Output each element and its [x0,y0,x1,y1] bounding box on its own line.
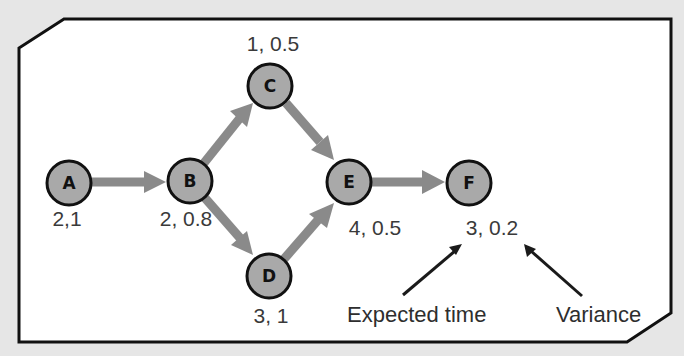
node-b-label: B [184,171,197,191]
node-d: D 3, 1 [247,254,291,327]
node-c-label: C [264,76,276,96]
node-e-label: E [343,172,355,192]
variance-label: Variance [556,302,641,327]
pert-diagram: A 2,1 B 2, 0.8 C 1, 0.5 D 3, 1 E 4, 0.5 … [0,0,684,356]
node-d-stats: 3, 1 [253,304,288,327]
diagram-canvas: A 2,1 B 2, 0.8 C 1, 0.5 D 3, 1 E 4, 0.5 … [0,0,684,356]
node-e-stats: 4, 0.5 [349,216,402,239]
node-a-label: A [62,173,76,193]
node-f-stats: 3, 0.2 [466,216,519,239]
node-f-label: F [463,173,475,193]
node-a-stats: 2,1 [52,207,81,230]
expected-time-label: Expected time [347,302,486,327]
node-c-stats: 1, 0.5 [247,32,300,55]
node-b-stats: 2, 0.8 [160,207,213,230]
node-d-label: D [262,266,276,286]
